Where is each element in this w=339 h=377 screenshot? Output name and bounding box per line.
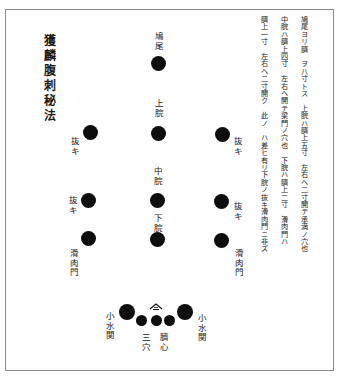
navel-mark-icon [149, 303, 163, 311]
label-kyubi: 鳩尾 [153, 32, 162, 51]
label-nuki-lower-right: 抜キ [232, 202, 241, 221]
point-kyubi [151, 56, 166, 71]
label-nuki-lower-left: 抜キ [67, 196, 76, 215]
point-saishin [151, 315, 162, 326]
label-sanketsu: 三穴 [140, 333, 149, 352]
point-sanketsu-left [136, 315, 147, 326]
point-nuki-lower-left [81, 193, 96, 208]
point-chukan [150, 193, 165, 208]
label-nuki-upper-left: 抜キ [69, 137, 78, 156]
point-katsunikumon-right [214, 233, 229, 248]
label-saishin: 臍心 [158, 333, 167, 352]
point-gekan [150, 232, 165, 247]
point-nuki-upper-right [215, 127, 230, 142]
label-gekan: 下脘 [152, 214, 161, 233]
label-shosuikan-right: 小水関 [196, 314, 205, 343]
point-nuki-upper-left [83, 125, 98, 140]
document-title: 獲麟腹刺秘法 [42, 34, 54, 124]
note-column-1: 鳩尾ヨリ臍 ヲ八寸トス 上脘ハ臍上五寸 左右ヘ二寸開テ承満ノ穴也 [301, 16, 308, 253]
point-katsunikumon-left [81, 231, 96, 246]
note-column-2: 中脘ハ臍上四寸 左右ヘ開テ梁門ノ穴也 下脘ハ臍上二寸 滑肉門ハ [281, 16, 288, 245]
label-katsunikumon-left: 滑肉門 [68, 249, 77, 278]
point-shosuikan-right [177, 304, 193, 320]
point-nuki-lower-right [214, 194, 229, 209]
label-nuki-upper-right: 抜キ [232, 137, 241, 156]
point-jokan [151, 126, 166, 141]
label-chukan: 中脘 [152, 167, 161, 186]
label-katsunikumon-right: 滑肉門 [233, 249, 242, 278]
label-shosuikan-left: 小水関 [104, 312, 113, 341]
label-jokan: 上脘 [153, 99, 162, 118]
point-sanketsu-right [164, 315, 175, 326]
point-shosuikan-left [119, 304, 135, 320]
note-column-3: 臍上一寸 左右ヘ二寸開ク 此ノ ハ差ヒ有リ下脘ノ抜キ滑肉門ニ非ズ [261, 16, 268, 253]
